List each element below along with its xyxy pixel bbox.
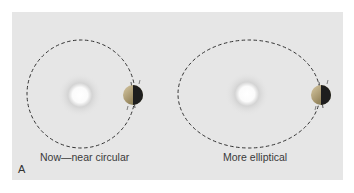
sun-icon: [58, 73, 102, 117]
elliptical-panel: [178, 40, 331, 148]
earth-icon: [311, 80, 331, 110]
more-elliptical-caption: More elliptical: [223, 151, 287, 163]
earth-icon: [123, 80, 143, 110]
panel-letter-label: A: [18, 163, 25, 175]
near-circular-panel: [27, 40, 143, 148]
sun-icon: [225, 72, 269, 116]
orbit-diagram: [0, 0, 354, 193]
near-circular-caption: Now—near circular: [40, 151, 129, 163]
